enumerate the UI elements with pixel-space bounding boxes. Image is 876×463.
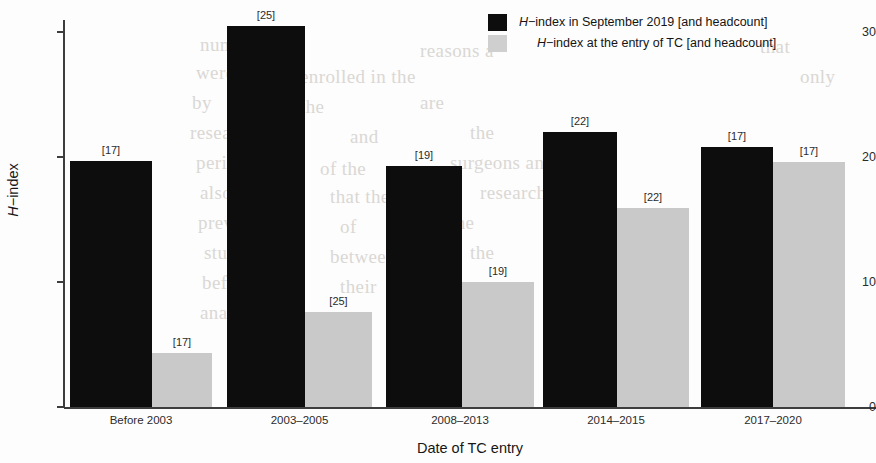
bar-headcount-label: [17] bbox=[728, 130, 746, 142]
y-axis-title-suffix: −index bbox=[5, 163, 21, 206]
legend-item-0[interactable]: H−index in September 2019 [and headcount… bbox=[488, 13, 767, 31]
bar-1-4 bbox=[773, 162, 845, 407]
x-axis-tick-label: Before 2003 bbox=[71, 414, 211, 426]
legend-label-text: −index in September 2019 [and headcount] bbox=[528, 15, 767, 29]
x-axis-title: Date of TC entry bbox=[64, 440, 876, 456]
bar-1-3 bbox=[617, 208, 689, 407]
bar-1-1 bbox=[305, 312, 372, 407]
legend-label-prefix: H bbox=[519, 15, 528, 29]
x-axis-tick-label: 2017–2020 bbox=[703, 414, 843, 426]
bar-headcount-label: [25] bbox=[257, 9, 275, 21]
plot-area: [17][25][19][22][17][17][25][19][22][17] bbox=[0, 0, 876, 407]
bar-headcount-label: [22] bbox=[644, 191, 662, 203]
bar-headcount-label: [25] bbox=[329, 295, 347, 307]
chart-figure: numberreasons athatwereenrolled in theon… bbox=[0, 0, 876, 463]
x-axis-tick-label: 2008–2013 bbox=[390, 414, 530, 426]
legend-item-1[interactable]: H−index at the entry of TC [and headcoun… bbox=[488, 34, 776, 52]
legend-swatch-icon bbox=[488, 35, 507, 52]
y-axis-title-prefix: H bbox=[5, 206, 21, 216]
chart-legend: H−index in September 2019 [and headcount… bbox=[488, 11, 876, 55]
bar-0-2 bbox=[386, 166, 462, 407]
bar-headcount-label: [19] bbox=[415, 149, 433, 161]
y-axis-tick-mark bbox=[57, 406, 63, 407]
bar-0-1 bbox=[227, 26, 305, 407]
bar-1-0 bbox=[152, 353, 212, 407]
legend-label: H−index at the entry of TC [and headcoun… bbox=[537, 36, 776, 50]
y-axis-tick-label: 20 bbox=[846, 150, 876, 164]
legend-swatch-icon bbox=[488, 14, 507, 31]
legend-label-prefix: H bbox=[537, 36, 546, 50]
bar-headcount-label: [19] bbox=[489, 265, 507, 277]
x-axis-tick-label: 2014–2015 bbox=[546, 414, 686, 426]
bar-headcount-label: [22] bbox=[571, 115, 589, 127]
x-axis-line bbox=[64, 407, 876, 409]
bar-0-3 bbox=[543, 132, 617, 407]
y-axis-line bbox=[63, 20, 65, 408]
y-axis-tick-mark bbox=[57, 31, 63, 32]
bar-0-0 bbox=[70, 161, 152, 407]
y-axis-tick-label: 10 bbox=[846, 275, 876, 289]
bar-headcount-label: [17] bbox=[173, 336, 191, 348]
bar-headcount-label: [17] bbox=[102, 144, 120, 156]
legend-label-text: −index at the entry of TC [and headcount… bbox=[546, 36, 776, 50]
y-axis-tick-mark bbox=[57, 156, 63, 157]
y-axis-tick-label: 0 bbox=[846, 400, 876, 414]
bar-1-2 bbox=[462, 282, 534, 407]
bar-0-4 bbox=[701, 147, 773, 407]
y-axis-tick-mark bbox=[57, 281, 63, 282]
bar-headcount-label: [17] bbox=[800, 145, 818, 157]
y-axis-title: H−index bbox=[5, 147, 21, 233]
x-axis-tick-label: 2003–2005 bbox=[230, 414, 370, 426]
legend-label: H−index in September 2019 [and headcount… bbox=[519, 15, 767, 29]
